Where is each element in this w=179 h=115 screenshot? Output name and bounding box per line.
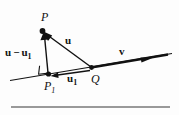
point-Q-dot <box>89 65 94 70</box>
point-P1-dot <box>46 71 51 76</box>
point-label-P1: P1 <box>44 80 55 95</box>
point-P-dot <box>40 28 46 34</box>
vector-label-u-minus-u1: u−u1 <box>5 47 32 61</box>
point-label-P1-subscript: 1 <box>51 86 55 95</box>
vector-label-u-minus-u1-subscript: 1 <box>28 52 32 61</box>
vector-label-u: u <box>65 35 71 46</box>
vector-v-arrowhead <box>141 57 153 62</box>
vector-label-u1-subscript: 1 <box>73 78 77 87</box>
vector-label-v: v <box>119 46 125 57</box>
vector-u-minus-u1-shaft <box>45 36 49 73</box>
point-label-Q: Q <box>91 73 100 85</box>
vector-projection-figure: P P1 Q u u1 u−u1 v <box>0 0 179 115</box>
point-label-P: P <box>41 11 48 23</box>
vector-label-u1: u1 <box>67 73 77 87</box>
right-angle-marker <box>39 66 47 74</box>
minus-operator: − <box>11 46 21 58</box>
vector-v-shaft <box>91 55 168 68</box>
